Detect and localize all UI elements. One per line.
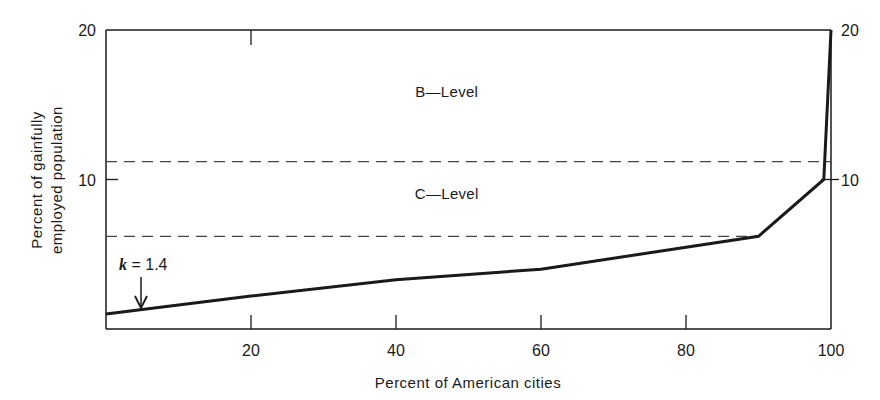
region-labels: B—LevelC—Level <box>415 83 479 202</box>
chart: 2040608010010201020 B—LevelC—Level k = 1… <box>0 0 880 400</box>
region-label: C—Level <box>415 185 479 202</box>
y-axis-title-line1: Percent of gainfully <box>28 111 45 249</box>
y-tick-label-left: 20 <box>78 22 96 39</box>
y-tick-label-right: 20 <box>841 22 859 39</box>
y-tick-label-right: 10 <box>841 172 859 189</box>
plot-frame <box>106 30 831 329</box>
k-annotation-label: k = 1.4 <box>119 256 168 273</box>
y-axis-title: Percent of gainfully employed population <box>28 106 65 254</box>
x-axis-title: Percent of American cities <box>375 374 561 391</box>
region-label: B—Level <box>415 83 478 100</box>
x-tick-label: 20 <box>242 342 260 359</box>
k-variable: k <box>119 256 127 273</box>
k-value: = 1.4 <box>127 256 168 273</box>
x-tick-label: 60 <box>532 342 550 359</box>
x-tick-label: 100 <box>818 342 845 359</box>
data-line <box>106 30 831 314</box>
y-axis-title-line2: employed population <box>48 106 65 254</box>
x-tick-label: 40 <box>387 342 405 359</box>
k-annotation: k = 1.4 <box>119 256 168 308</box>
ticks <box>106 30 839 329</box>
y-tick-label-left: 10 <box>78 172 96 189</box>
x-tick-label: 80 <box>677 342 695 359</box>
